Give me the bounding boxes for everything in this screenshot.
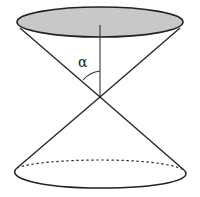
angle-alpha-label: α: [78, 55, 87, 69]
bottom-base-visible-edge: [15, 168, 186, 188]
double-cone-diagram: α: [0, 0, 200, 197]
double-cone-drawing: [0, 0, 200, 197]
upper-left-generatrix: [20, 28, 100, 97]
bottom-base-hidden-edge: [17, 160, 184, 170]
lower-right-generatrix: [100, 97, 184, 170]
upper-right-generatrix: [100, 28, 180, 97]
angle-arc: [83, 71, 100, 80]
lower-left-generatrix: [17, 97, 100, 168]
